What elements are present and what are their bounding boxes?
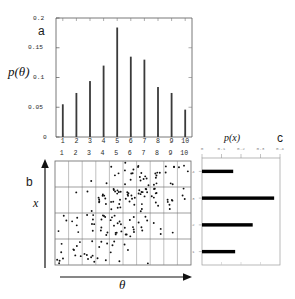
panel-b-point bbox=[110, 166, 112, 168]
panel-b-point bbox=[80, 255, 82, 257]
panel-b-point bbox=[157, 205, 159, 207]
panel-b-point bbox=[169, 208, 171, 210]
panel-b-point bbox=[133, 216, 135, 218]
panel-b-xtick-label: 10 bbox=[175, 150, 193, 157]
panel-c-ytick-label: 4 bbox=[192, 169, 195, 174]
panel-b-point bbox=[187, 170, 189, 172]
panel-b-point bbox=[61, 243, 63, 245]
panel-a-ytick-2: 0.1 bbox=[33, 74, 44, 81]
panel-b-point bbox=[104, 198, 106, 200]
panel-b-point bbox=[118, 260, 120, 262]
panel-b-point bbox=[118, 191, 120, 193]
panel-c-bar bbox=[202, 250, 235, 253]
panel-b-point bbox=[143, 178, 145, 180]
panel-c-bar bbox=[202, 170, 233, 173]
panel-c-ytick-label: 1 bbox=[192, 249, 195, 254]
panel-b-point bbox=[84, 253, 86, 255]
panel-a-bar bbox=[89, 81, 91, 137]
panel-b-point bbox=[146, 178, 148, 180]
panel-b-point bbox=[138, 222, 140, 224]
panel-b-point bbox=[153, 188, 155, 190]
panel-b-point bbox=[76, 224, 78, 226]
panel-b-point bbox=[113, 241, 115, 243]
panel-b-point bbox=[110, 208, 112, 210]
panel-b-point bbox=[165, 165, 167, 167]
panel-b-point bbox=[132, 169, 134, 171]
panel-b-point bbox=[182, 195, 184, 197]
panel-b-point bbox=[141, 230, 143, 232]
panel-b-point bbox=[129, 201, 131, 203]
panel-b-point bbox=[87, 191, 89, 193]
panel-b-ylabel: x bbox=[33, 196, 38, 211]
panel-a-bar bbox=[171, 93, 173, 137]
panel-b-point bbox=[114, 215, 116, 217]
panel-b-point bbox=[115, 232, 117, 234]
panel-b-point bbox=[56, 259, 58, 261]
panel-b-point bbox=[60, 251, 62, 253]
panel-b-point bbox=[140, 210, 142, 212]
panel-b-point bbox=[76, 245, 78, 247]
panel-b-point bbox=[120, 191, 122, 193]
panel-b-point bbox=[72, 248, 74, 250]
panel-a-bar bbox=[103, 66, 105, 137]
panel-b-point bbox=[114, 191, 116, 193]
panel-b-point bbox=[171, 200, 173, 202]
panel-b-point bbox=[62, 258, 64, 260]
panel-b-point bbox=[183, 165, 185, 167]
panel-b-point bbox=[100, 241, 102, 243]
panel-b-point bbox=[98, 199, 100, 201]
panel-b-point bbox=[130, 195, 132, 197]
panel-a-letter: a bbox=[38, 24, 45, 38]
panel-b-point bbox=[113, 225, 115, 227]
panel-b-point bbox=[124, 227, 126, 229]
panel-b-point bbox=[154, 173, 156, 175]
panel-a-bar bbox=[157, 87, 159, 137]
panel-c-ytick-label: 2 bbox=[192, 222, 195, 227]
panel-b-point bbox=[131, 198, 133, 200]
panel-b-point bbox=[63, 215, 65, 217]
panel-a-ytick-3: 0.15 bbox=[28, 44, 43, 51]
panel-b-point bbox=[156, 175, 158, 177]
panel-c-frame bbox=[202, 158, 280, 265]
panel-b-point bbox=[124, 169, 126, 171]
panel-b-point bbox=[71, 220, 73, 222]
figure-root: a b c p(θ) 0 0.05 0.1 0.15 0.2 123456789… bbox=[0, 0, 295, 299]
panel-b-point bbox=[86, 214, 88, 216]
panel-b-point bbox=[133, 229, 135, 231]
panel-b-point bbox=[98, 200, 100, 202]
panel-b-point bbox=[156, 192, 158, 194]
panel-b-point bbox=[125, 234, 127, 236]
panel-b-point bbox=[124, 162, 126, 164]
panel-b-point bbox=[133, 204, 135, 206]
panel-b-point bbox=[105, 259, 107, 261]
panel-b-point bbox=[77, 231, 79, 233]
panel-b-point bbox=[172, 232, 174, 234]
panel-b-point bbox=[118, 203, 120, 205]
panel-b-point bbox=[130, 173, 132, 175]
panel-b-point bbox=[111, 216, 113, 218]
panel-b-point bbox=[105, 234, 107, 236]
panel-a-xtick-label: 10 bbox=[176, 138, 194, 145]
panel-b-point bbox=[138, 189, 140, 191]
panel-b-point bbox=[140, 226, 142, 228]
panel-b-point bbox=[183, 188, 185, 190]
panel-c-xtick-label: 0 bbox=[197, 146, 207, 151]
panel-b-point bbox=[114, 174, 116, 176]
panel-b-point bbox=[65, 220, 67, 222]
panel-c-y-ticks bbox=[199, 171, 202, 251]
panel-b-point bbox=[160, 233, 162, 235]
panel-c-bar bbox=[202, 223, 253, 226]
panel-b-point bbox=[93, 223, 95, 225]
panel-b-xlabel: θ bbox=[119, 277, 125, 293]
panel-b-point bbox=[92, 255, 94, 257]
panel-a-bar bbox=[62, 104, 64, 137]
panel-a-bar bbox=[130, 57, 132, 137]
panel-b-point bbox=[92, 230, 94, 232]
panel-c-xtick-label: 0.4 bbox=[275, 146, 285, 151]
panel-b-point bbox=[91, 223, 93, 225]
panel-b-y-arrow bbox=[41, 159, 49, 268]
panel-b-point bbox=[113, 188, 115, 190]
panel-a-plot bbox=[56, 18, 192, 137]
panel-b-point bbox=[101, 219, 103, 221]
panel-b-point bbox=[90, 180, 92, 182]
